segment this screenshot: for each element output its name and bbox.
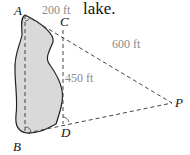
measurement-CP: 600 ft	[112, 37, 141, 51]
lake-diagram: A C P D B 200 ft 600 ft 450 ft lake.	[0, 0, 190, 155]
label-D: D	[60, 125, 71, 140]
angle-mark-D	[63, 117, 69, 122]
caption-text: lake.	[83, 0, 116, 18]
measurement-AC: 200 ft	[42, 3, 71, 17]
measurement-CD: 450 ft	[65, 71, 94, 85]
label-B: B	[13, 139, 21, 154]
label-A: A	[13, 3, 22, 18]
label-P: P	[174, 95, 183, 110]
